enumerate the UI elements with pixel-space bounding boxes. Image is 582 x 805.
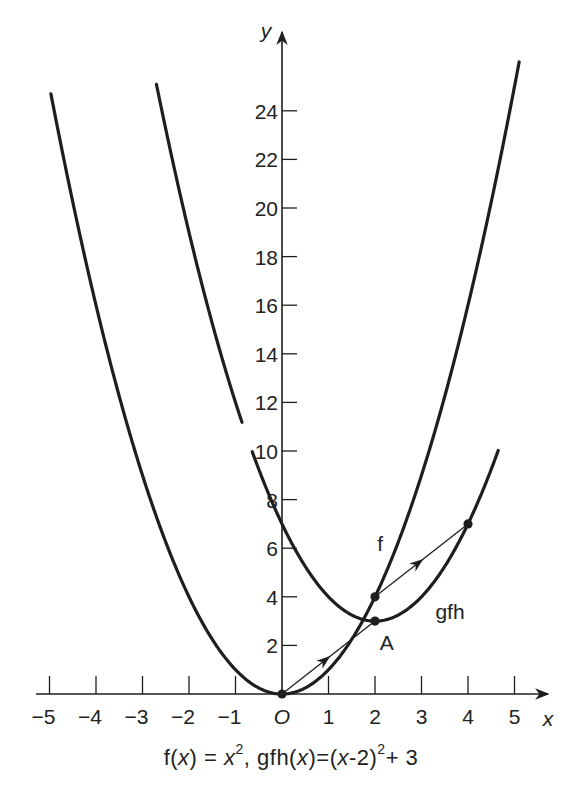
caption-gfh: gfh(x)=(x-2)2+ 3: [257, 745, 418, 770]
x-tick-label: −4: [78, 705, 102, 728]
y-tick-label: 20: [255, 197, 278, 220]
y-tick-label: 18: [255, 246, 278, 269]
x-axis-label: x: [542, 707, 555, 730]
function-graph: −5−4−3−2−1O12345x 24681012141618202224y …: [0, 0, 582, 805]
label-f: f: [377, 532, 383, 555]
y-axis: 24681012141618202224y: [255, 19, 297, 694]
point-gfh-at-4: [463, 519, 472, 528]
x-tick-label: −1: [218, 705, 242, 728]
x-tick-label: −2: [171, 705, 195, 728]
x-tick-label: 5: [509, 705, 521, 728]
y-axis-label: y: [259, 19, 273, 42]
label-a: A: [380, 631, 394, 654]
label-gfh: gfh: [435, 600, 464, 623]
annotations: fgfhA: [377, 532, 464, 655]
y-tick-label: 12: [255, 391, 278, 414]
y-tick-label: 24: [255, 100, 279, 123]
x-tick-label: O: [274, 705, 290, 728]
curve-gfh: [156, 84, 242, 422]
x-tick-label: 4: [462, 705, 474, 728]
y-tick-label: 22: [255, 148, 278, 171]
x-tick-label: −3: [125, 705, 149, 728]
y-tick-label: 4: [266, 586, 278, 609]
x-tick-label: −5: [32, 705, 56, 728]
caption-f: f(x) = x2,: [164, 745, 257, 770]
arrowhead-icon: [316, 656, 330, 669]
point-origin: [277, 689, 286, 698]
function-caption: f(x) = x2, gfh(x)=(x-2)2+ 3: [0, 744, 582, 771]
x-tick-label: 3: [416, 705, 428, 728]
point-f-at-2: [370, 592, 379, 601]
arrowhead-icon: [409, 559, 423, 572]
y-tick-label: 10: [255, 440, 278, 463]
y-tick-label: 14: [255, 343, 279, 366]
y-tick-label: 6: [266, 537, 278, 560]
x-tick-label: 1: [323, 705, 335, 728]
y-tick-label: 2: [266, 634, 278, 657]
x-tick-label: 2: [369, 705, 381, 728]
x-axis: −5−4−3−2−1O12345x: [32, 676, 555, 730]
y-tick-label: 16: [255, 294, 278, 317]
point-a: [370, 617, 379, 626]
